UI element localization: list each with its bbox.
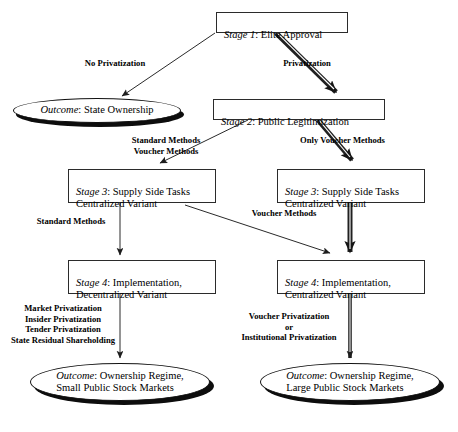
node-outcome-state-stage: Outcome (40, 104, 78, 115)
node-stage1[interactable]: Stage 1: Elite Approval (216, 12, 348, 33)
edge-label-voucher-methods: Voucher Methods (236, 208, 332, 219)
node-stage4-right[interactable]: Stage 4: Implementation, Centralized Var… (277, 260, 425, 294)
node-stage3-left[interactable]: Stage 3: Supply Side Tasks Centralized V… (68, 169, 216, 203)
node-stage3-right-stage: Stage 3 (285, 186, 316, 197)
flowchart-canvas: Stage 1: Elite Approval Outcome: State O… (0, 0, 458, 432)
edge-label-privatization: Privatization (252, 58, 362, 69)
node-stage1-body: Elite Approval (261, 29, 323, 40)
edge-label-left-privatization-methods: Market Privatization Insider Privatizati… (6, 303, 120, 345)
edge-label-only-voucher-methods: Only Voucher Methods (280, 135, 405, 146)
edge-label-right-privatization-methods: Voucher Privatization or Institutional P… (232, 311, 346, 343)
node-outcome-large-stage: Outcome (286, 370, 324, 381)
node-stage4-left[interactable]: Stage 4: Implementation, Decentralized V… (68, 260, 216, 294)
edge-label-standard-methods: Standard Methods (23, 216, 119, 227)
node-outcome-large[interactable]: Outcome: Ownership Regime, Large Public … (260, 363, 440, 401)
node-stage2[interactable]: Stage 2: Public Legitimization (213, 99, 385, 120)
node-stage2-stage: Stage 2 (221, 116, 252, 127)
edge-label-standard-voucher-methods: Standard Methods Voucher Methods (106, 135, 226, 156)
edge-label-no-privatization: No Privatization (60, 58, 170, 69)
node-outcome-small[interactable]: Outcome: Ownership Regime, Small Public … (30, 363, 210, 401)
node-outcome-state-body: State Ownership (84, 104, 154, 115)
node-outcome-state[interactable]: Outcome: State Ownership (13, 98, 181, 123)
node-outcome-small-stage: Outcome (56, 370, 94, 381)
node-stage2-body: Public Legitimization (258, 116, 349, 127)
node-stage4-left-stage: Stage 4 (76, 277, 107, 288)
node-stage3-left-stage: Stage 3 (76, 186, 107, 197)
node-stage3-right[interactable]: Stage 3: Supply Side Tasks Centralized V… (277, 169, 425, 203)
node-stage1-stage: Stage 1 (224, 29, 255, 40)
node-stage4-right-stage: Stage 4 (285, 277, 316, 288)
